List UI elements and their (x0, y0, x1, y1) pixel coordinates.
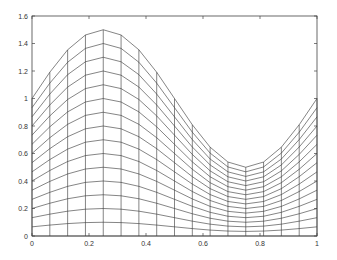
y-tick-label: 1.4 (18, 40, 28, 47)
y-tick-label: 1 (24, 95, 28, 102)
mesh-chart: 00.20.40.60.81 00.20.40.60.811.21.41.6 (0, 0, 337, 260)
y-axis-ticks: 00.20.40.60.811.21.41.6 (18, 13, 317, 240)
y-tick-label: 0.4 (18, 178, 28, 185)
x-tick-label: 0.8 (255, 240, 265, 247)
x-tick-label: 1 (315, 240, 319, 247)
x-tick-label: 0.4 (141, 240, 151, 247)
y-tick-label: 1.6 (18, 13, 28, 20)
y-tick-label: 0.6 (18, 150, 28, 157)
x-tick-label: 0.2 (84, 240, 94, 247)
x-tick-label: 0.6 (198, 240, 208, 247)
y-tick-label: 0.2 (18, 205, 28, 212)
y-tick-label: 1.2 (18, 68, 28, 75)
x-tick-label: 0 (30, 240, 34, 247)
y-tick-label: 0 (24, 233, 28, 240)
y-tick-label: 0.8 (18, 123, 28, 130)
mesh-lines (32, 30, 317, 236)
